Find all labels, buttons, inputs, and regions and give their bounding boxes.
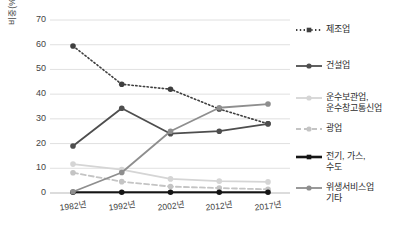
y-tick-0: 0: [24, 188, 46, 197]
chart-title: [30, 0, 320, 11]
data-point: [265, 101, 271, 107]
legend-swatch-icon: [296, 24, 322, 35]
data-point: [119, 189, 125, 195]
legend-label: 위생서비스업 기타: [322, 182, 374, 203]
y-tick-50: 50: [24, 64, 46, 73]
legend-label: 운수보관업, 운수창고통신업: [322, 92, 382, 113]
data-point: [216, 178, 222, 184]
legend-swatch-icon: [296, 182, 322, 193]
legend-swatch-icon: [296, 151, 322, 162]
series-line: [73, 46, 268, 124]
legend-item-제조업[interactable]: 제조업: [296, 24, 350, 35]
legend-label: 광업: [322, 123, 342, 134]
legend-swatch-icon: [296, 60, 322, 71]
series-전기, 가스, 수도: [70, 189, 271, 195]
series-제조업: [70, 43, 271, 126]
data-point: [119, 105, 125, 111]
data-point: [216, 105, 222, 111]
data-point: [216, 189, 222, 195]
data-point: [70, 161, 76, 167]
data-point: [216, 128, 222, 134]
data-point: [265, 179, 271, 185]
legend-label: 전기, 가스, 수도: [322, 151, 366, 172]
data-point: [119, 170, 125, 176]
data-point: [119, 179, 125, 185]
legend-swatch-icon: [296, 92, 322, 103]
series-line: [73, 108, 268, 146]
legend-swatch-icon: [296, 123, 322, 134]
y-axis-label: 비중(%): [5, 0, 17, 40]
data-point: [119, 81, 125, 87]
legend-label: 제조업: [322, 24, 350, 35]
series-건설업: [70, 105, 271, 148]
y-tick-20: 20: [24, 139, 46, 148]
line-chart: 비중(%) 706050403020100 1982년1992년2002년201…: [0, 0, 400, 235]
legend-item-운수보관업-운수창고통신업[interactable]: 운수보관업, 운수창고통신업: [296, 92, 382, 113]
data-point: [70, 43, 76, 49]
y-tick-70: 70: [24, 15, 46, 24]
y-tick-30: 30: [24, 114, 46, 123]
legend-label: 건설업: [322, 60, 350, 71]
data-point: [265, 189, 271, 195]
data-point: [168, 86, 174, 92]
legend-item-건설업[interactable]: 건설업: [296, 60, 350, 71]
y-tick-60: 60: [24, 40, 46, 49]
y-tick-40: 40: [24, 89, 46, 98]
data-point: [70, 143, 76, 149]
legend-item-위생서비스업-기타[interactable]: 위생서비스업 기타: [296, 182, 374, 203]
data-point: [168, 189, 174, 195]
legend-item-전기-가스-수도[interactable]: 전기, 가스, 수도: [296, 151, 366, 172]
data-point: [70, 170, 76, 176]
legend-item-광업[interactable]: 광업: [296, 123, 342, 134]
data-point: [70, 189, 76, 195]
data-point: [168, 128, 174, 134]
data-point: [168, 184, 174, 190]
data-point: [168, 176, 174, 182]
y-tick-10: 10: [24, 163, 46, 172]
data-point: [265, 121, 271, 127]
